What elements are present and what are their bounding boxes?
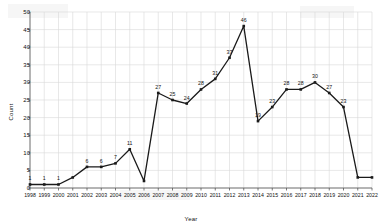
data-point-value-label: 6: [86, 158, 89, 164]
data-point-value-label: 28: [298, 80, 304, 86]
x-axis-title: Year: [0, 216, 382, 222]
data-point-value-label: 1: [57, 175, 60, 181]
data-point-value-label: 28: [284, 80, 290, 86]
data-point-value-label: 11: [127, 140, 132, 146]
data-point-value-label: 23: [341, 98, 347, 104]
data-point-labels: 111667112725242831374619232828302723: [0, 0, 382, 224]
data-point-value-label: 27: [155, 84, 161, 90]
data-point-value-label: 46: [241, 17, 247, 23]
data-point-value-label: 24: [184, 95, 190, 101]
chart-container: 05101520253035404550 1998199920002001200…: [0, 0, 382, 224]
data-point-value-label: 19: [255, 112, 261, 118]
data-point-value-label: 37: [227, 49, 233, 55]
data-point-value-label: 23: [269, 98, 275, 104]
data-point-value-label: 25: [170, 91, 176, 97]
data-point-value-label: 1: [29, 175, 32, 181]
data-point-value-label: 1: [43, 175, 46, 181]
data-point-value-label: 7: [114, 154, 117, 160]
data-point-value-label: 28: [198, 80, 204, 86]
data-point-value-label: 6: [100, 158, 103, 164]
data-point-value-label: 27: [326, 84, 332, 90]
data-point-value-label: 30: [312, 73, 318, 79]
data-point-value-label: 31: [212, 70, 218, 76]
y-axis-title: Count: [8, 103, 14, 120]
